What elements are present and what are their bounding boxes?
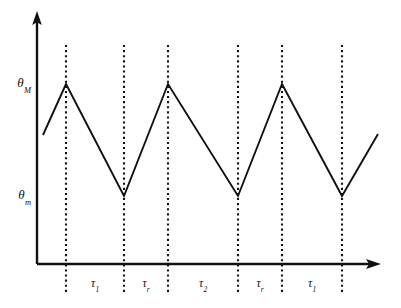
figure-canvas: θMθm τ1τrτ2τrτ1: [0, 0, 401, 308]
y-axis-tick-label-2: θm: [18, 188, 31, 204]
y-axis-tick-label-1: θM: [17, 76, 31, 92]
plot-svg: [0, 0, 401, 308]
gridline-group: [66, 45, 342, 292]
interval-label-3: τ2: [199, 278, 207, 292]
interval-label-5: τ1: [308, 278, 316, 292]
interval-label-1: τ1: [91, 278, 99, 292]
interval-label-2: τr: [142, 278, 149, 292]
temperature-waveform: [43, 84, 378, 196]
interval-label-4: τr: [256, 278, 263, 292]
axis-group: [32, 11, 381, 269]
